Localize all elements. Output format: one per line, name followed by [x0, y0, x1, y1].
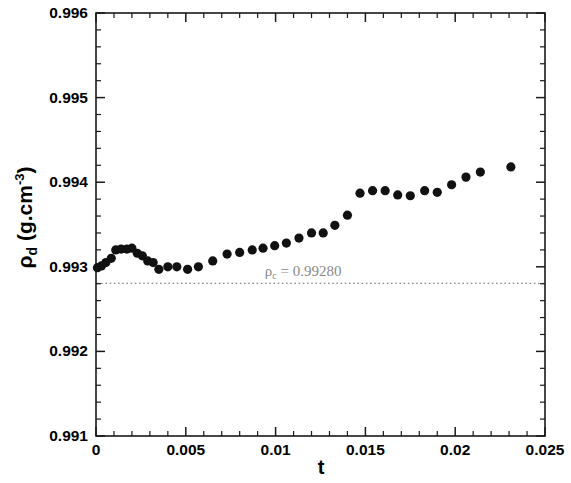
x-tick-label: 0.025 [526, 442, 565, 458]
annotation-rho-subscript: c [272, 270, 276, 281]
data-point [282, 239, 291, 248]
data-point [270, 241, 279, 250]
data-point [393, 190, 402, 199]
data-point [208, 256, 217, 265]
data-point [447, 180, 456, 189]
plot-frame [96, 13, 545, 436]
data-point [183, 265, 192, 274]
data-point [420, 186, 429, 195]
x-tick-label: 0.02 [440, 442, 470, 458]
data-point [248, 245, 257, 254]
data-point [368, 186, 377, 195]
x-tick-label: 0.01 [261, 442, 291, 458]
y-axis-title: ρd (g.cm-3) [12, 108, 37, 328]
data-point [163, 262, 172, 271]
data-point [476, 167, 485, 176]
y-tick-label: 0.995 [0, 90, 96, 106]
data-point [235, 248, 244, 257]
x-axis-title: t [96, 456, 546, 479]
data-point [307, 228, 316, 237]
y-tick-label: 0.991 [0, 428, 96, 444]
data-point [433, 188, 442, 197]
data-point [461, 173, 470, 182]
data-point [319, 228, 328, 237]
x-tick-label: 0.015 [346, 442, 385, 458]
data-point [223, 250, 232, 259]
y-axis-rho-subscript: d [24, 247, 40, 256]
y-tick-label: 0.993 [0, 259, 96, 275]
data-point [343, 211, 352, 220]
critical-density-annotation: ρc = 0.99280 [265, 263, 342, 280]
data-point [381, 186, 390, 195]
data-point [406, 191, 415, 200]
annotation-value-text: = 0.99280 [277, 263, 342, 279]
y-axis-unit-open: (g.cm [13, 185, 36, 247]
scatter-plot-figure: ρd (g.cm-3) t 0.9910.9920.9930.9940.9950… [0, 0, 571, 483]
data-point [194, 262, 203, 271]
data-point [258, 244, 267, 253]
y-tick-label: 0.992 [0, 343, 96, 359]
plot-canvas [0, 0, 571, 483]
data-point [330, 221, 339, 230]
x-tick-label: 0 [92, 442, 101, 458]
y-tick-label: 0.994 [0, 174, 96, 190]
data-series-rho-d [93, 162, 516, 274]
data-point [154, 265, 163, 274]
data-point [506, 162, 515, 171]
y-tick-label: 0.996 [0, 5, 96, 21]
data-point [294, 233, 303, 242]
x-tick-label: 0.005 [166, 442, 205, 458]
data-point [107, 254, 116, 263]
data-point [355, 189, 364, 198]
y-axis-unit-close: ) [13, 167, 36, 174]
data-point [172, 262, 181, 271]
